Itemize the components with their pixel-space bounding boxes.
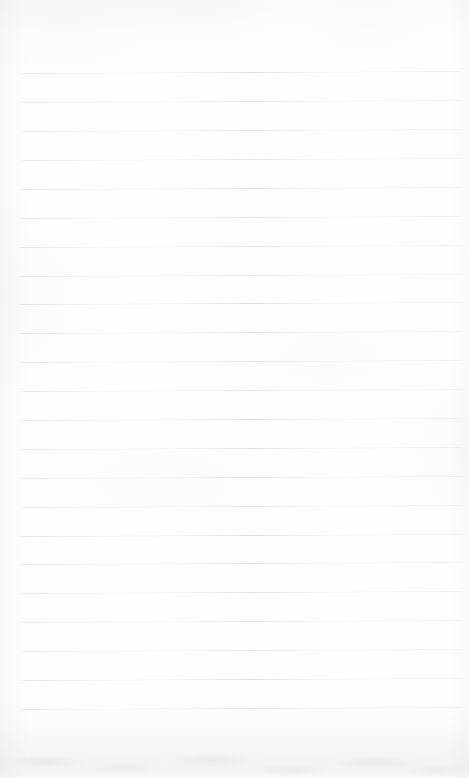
ruled-line <box>18 360 463 363</box>
ruled-line <box>18 534 463 537</box>
ruled-line <box>19 71 462 74</box>
ruled-line <box>18 216 463 219</box>
ruled-line <box>18 245 463 248</box>
ruled-line <box>18 447 463 450</box>
ruled-line <box>19 649 463 652</box>
ruled-line <box>19 707 463 710</box>
ruled-line <box>18 620 463 623</box>
ruled-line <box>18 591 463 594</box>
ruled-line <box>18 418 463 421</box>
ruled-line <box>19 129 463 132</box>
ruled-line <box>18 476 463 479</box>
ruled-lines-layer <box>0 0 469 778</box>
ruled-line <box>19 158 463 161</box>
ruled-line <box>18 302 463 305</box>
ruled-line <box>18 274 463 277</box>
ruled-line <box>18 505 463 508</box>
ruled-line <box>18 562 463 565</box>
scanned-notebook-page <box>0 0 469 778</box>
ruled-line <box>18 389 463 392</box>
ruled-line <box>19 678 463 681</box>
ruled-line <box>18 187 463 190</box>
ruled-line <box>18 331 463 334</box>
ruled-line <box>19 100 462 103</box>
